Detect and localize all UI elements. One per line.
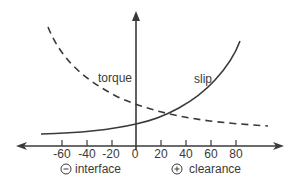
clearance-label: clearance	[189, 162, 241, 176]
tick-label: 80	[229, 147, 243, 161]
plus-circle-icon	[172, 164, 182, 174]
interface-label: interface	[75, 162, 121, 176]
tick-label: 60	[204, 147, 218, 161]
minus-circle-icon	[61, 164, 71, 174]
slip-label: slip	[194, 72, 212, 86]
y-axis-arrow-icon	[132, 11, 140, 21]
torque-curve	[48, 27, 268, 126]
tick-label: 20	[154, 147, 168, 161]
tick-label: -20	[102, 147, 120, 161]
torque-label: torque	[98, 71, 132, 85]
tick-label: 40	[179, 147, 193, 161]
tick-label: 0	[132, 147, 139, 161]
interference-fit-diagram: -60 -40 -20 0 20 40 60 80 torque slip in…	[0, 0, 295, 186]
slip-curve	[41, 41, 240, 134]
tick-label: -40	[78, 147, 96, 161]
x-ticks	[62, 140, 236, 146]
tick-label: -60	[53, 147, 71, 161]
